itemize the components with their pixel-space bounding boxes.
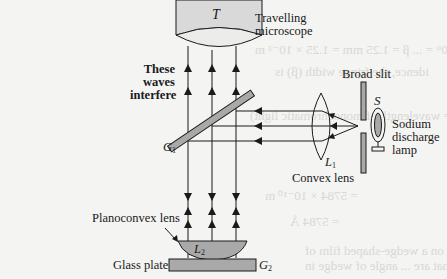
label-convex-lens: Convex lens xyxy=(292,172,354,185)
converging-rays xyxy=(322,111,358,141)
label-l2: L2 xyxy=(194,243,205,259)
sodium-lamp xyxy=(371,108,385,151)
label-g1: G1 xyxy=(163,141,176,157)
down-arrows xyxy=(184,193,240,201)
glass-plate-g1 xyxy=(168,90,255,152)
label-travelling-microscope: Travelling microscope xyxy=(255,12,313,38)
label-these-waves-interfere: These waves interfere xyxy=(130,63,175,102)
newtons-rings-diagram xyxy=(0,0,447,279)
glass-plate-g2 xyxy=(169,259,256,271)
label-planoconvex-lens: Planoconvex lens xyxy=(92,212,180,225)
left-arrows xyxy=(254,107,262,145)
label-l1: L1 xyxy=(325,156,336,172)
label-broad-slit: Broad slit xyxy=(342,68,391,81)
label-s: S xyxy=(374,94,381,107)
label-t: T xyxy=(212,8,220,21)
label-glass-plate: Glass plate xyxy=(113,259,168,272)
label-g2: G2 xyxy=(259,259,272,275)
broad-slit xyxy=(361,82,366,173)
label-sodium-discharge-lamp: Sodium discharge lamp xyxy=(392,118,440,157)
